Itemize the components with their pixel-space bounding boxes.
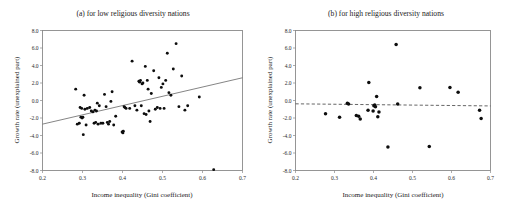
data-point — [167, 91, 170, 94]
data-point — [147, 110, 150, 113]
data-point — [74, 88, 77, 91]
y-tick-label: -6.0 — [283, 150, 292, 156]
data-point — [386, 145, 390, 149]
data-point — [152, 69, 155, 72]
y-tick-label: -2.0 — [283, 115, 292, 121]
data-point — [183, 109, 186, 112]
data-point — [81, 116, 84, 119]
y-tick-label: 0.0 — [285, 98, 292, 104]
panel-a-x-tick-labels: 0.20.30.40.50.60.7 — [39, 175, 246, 181]
panel-a-tickmarks — [40, 31, 243, 174]
y-tick-label: -4.0 — [283, 133, 292, 139]
panel-b-frame — [296, 31, 491, 171]
data-point — [147, 88, 150, 91]
data-point — [169, 94, 172, 97]
data-point — [396, 102, 400, 106]
data-point — [85, 124, 88, 127]
y-tick-label: 6.0 — [285, 45, 292, 51]
x-tick-label: 0.3 — [79, 175, 86, 181]
data-point — [163, 107, 166, 110]
data-point — [156, 106, 159, 109]
data-point — [366, 108, 370, 112]
x-tick-label: 0.6 — [448, 175, 455, 181]
data-point — [212, 168, 215, 171]
y-tick-label: 6.0 — [32, 45, 39, 51]
data-point — [186, 104, 189, 107]
data-point — [144, 65, 147, 68]
scatter-figure: (a) for low religious diversity nations … — [0, 0, 507, 209]
panel-a-plot-area: 0.20.30.40.50.60.7 -8.0-6.0-4.0-2.00.02.… — [30, 28, 246, 181]
data-point — [377, 110, 381, 114]
x-tick-label: 0.6 — [199, 175, 206, 181]
panel-b: (b) for high religious diversity nations… — [253, 0, 506, 209]
data-point — [95, 110, 98, 113]
data-point — [367, 81, 371, 85]
panel-b-x-tick-labels: 0.20.30.40.50.60.7 — [292, 175, 494, 181]
data-point — [78, 122, 81, 125]
panel-b-x-axis-title: Income inequality (Gini coefficient) — [342, 191, 444, 199]
data-point — [338, 115, 342, 119]
data-point — [198, 96, 201, 99]
panel-b-data-points — [324, 43, 483, 149]
data-point — [82, 133, 85, 136]
data-point — [109, 100, 112, 103]
data-point — [160, 86, 163, 89]
data-point — [98, 104, 101, 107]
data-point — [140, 104, 143, 107]
data-point — [125, 107, 128, 110]
data-point — [114, 115, 117, 118]
data-point — [122, 130, 125, 133]
y-tick-label: -8.0 — [30, 168, 39, 174]
data-point — [139, 79, 142, 82]
panel-b-title: (b) for high religious diversity nations — [328, 9, 444, 18]
data-point — [180, 75, 183, 78]
data-point — [157, 76, 160, 79]
y-tick-label: 8.0 — [285, 28, 292, 34]
data-point — [358, 117, 362, 121]
x-tick-label: 0.2 — [39, 175, 46, 181]
data-point — [112, 124, 115, 127]
data-point — [135, 109, 138, 112]
data-point — [324, 112, 328, 116]
data-point — [175, 42, 178, 45]
data-point — [164, 79, 167, 82]
data-point — [128, 107, 131, 110]
y-tick-label: 8.0 — [32, 28, 39, 34]
y-tick-label: -4.0 — [30, 133, 39, 139]
panel-a-svg: (a) for low religious diversity nations … — [0, 0, 253, 209]
data-point — [149, 120, 152, 123]
data-point — [146, 79, 149, 82]
panel-a-x-axis-title: Income inequality (Gini coefficient) — [91, 191, 193, 199]
data-point — [376, 115, 380, 119]
data-point — [131, 60, 134, 63]
data-point — [394, 43, 398, 47]
data-point — [141, 82, 144, 85]
data-point — [375, 95, 379, 99]
y-tick-label: -8.0 — [283, 168, 292, 174]
panel-b-y-tick-labels: -8.0-6.0-4.0-2.00.02.04.06.08.0 — [283, 28, 292, 174]
panel-b-tickmarks — [293, 31, 491, 174]
data-point — [428, 145, 432, 149]
data-point — [101, 122, 104, 125]
data-point — [159, 107, 162, 110]
data-point — [97, 123, 100, 126]
data-point — [88, 106, 91, 109]
panel-a-frame — [43, 31, 243, 171]
data-point — [107, 123, 110, 126]
x-tick-label: 0.7 — [239, 175, 246, 181]
data-point — [347, 102, 351, 106]
data-point — [177, 105, 180, 108]
data-point — [448, 86, 452, 90]
x-tick-label: 0.7 — [487, 175, 494, 181]
data-point — [145, 113, 148, 116]
panel-a-y-axis-title: Growth rate (unexplained part) — [13, 56, 21, 144]
y-tick-label: -2.0 — [30, 115, 39, 121]
x-tick-label: 0.4 — [370, 175, 377, 181]
data-point — [83, 94, 86, 97]
panel-b-trend-line — [296, 104, 491, 106]
data-point — [371, 109, 375, 113]
x-tick-label: 0.5 — [159, 175, 166, 181]
y-tick-label: 0.0 — [32, 98, 39, 104]
x-tick-label: 0.5 — [409, 175, 416, 181]
y-tick-label: 2.0 — [32, 80, 39, 86]
